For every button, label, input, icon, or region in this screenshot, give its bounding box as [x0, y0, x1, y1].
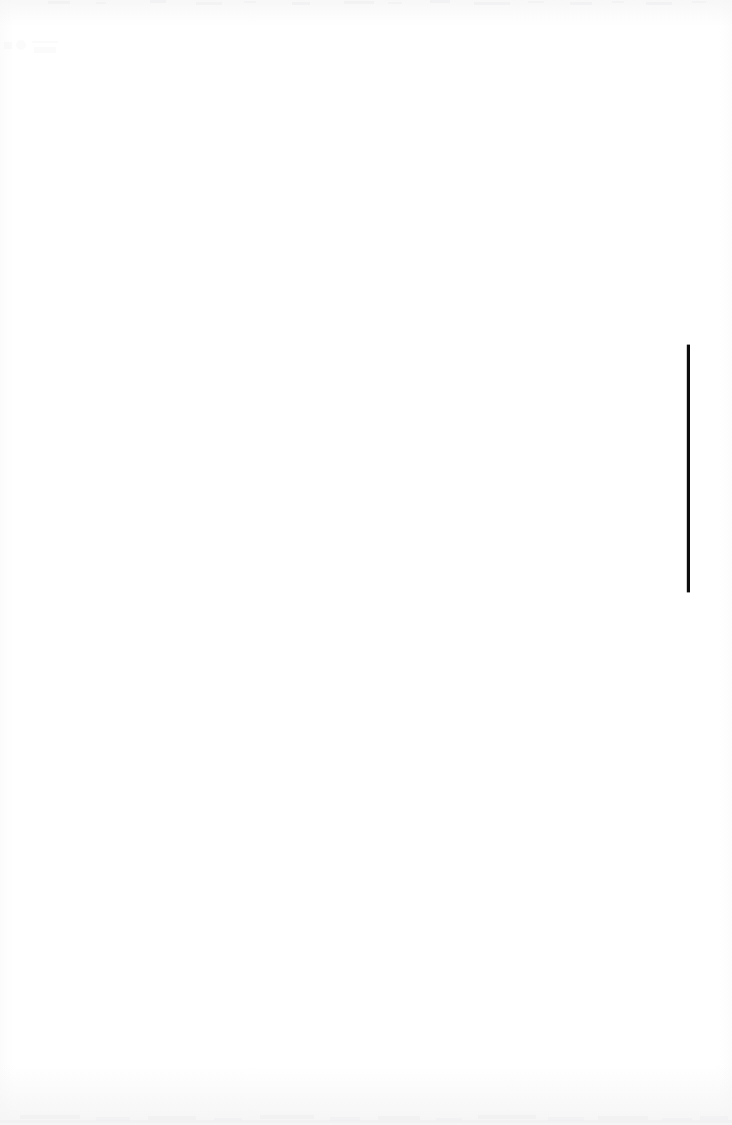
- bottom-edge-scan-noise: [0, 1103, 732, 1125]
- scanned-page: [0, 0, 732, 1125]
- paper-tone-overlay: [0, 0, 732, 1125]
- top-edge-scan-noise: [0, 0, 732, 16]
- upper-left-ghost-mark: [4, 38, 62, 56]
- step-rule-graphic: [0, 0, 732, 1125]
